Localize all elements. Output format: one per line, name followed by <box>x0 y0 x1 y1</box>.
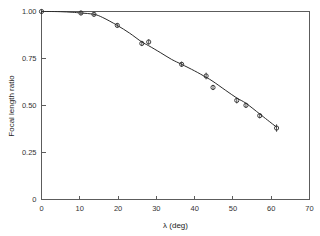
data-point <box>244 103 248 108</box>
y-tick-label-0: 0 <box>32 195 36 204</box>
data-point <box>147 39 151 44</box>
x-tick-label-40: 40 <box>190 204 198 213</box>
data-point <box>211 85 215 90</box>
fitted-curve <box>42 11 277 127</box>
chart-figure: 01020304050607000.250.500.751.00 λ (deg)… <box>0 0 320 236</box>
y-axis-title: Focal length ratio <box>7 75 16 137</box>
y-tick-label-0.75: 0.75 <box>22 54 37 63</box>
focal-length-ratio-plot: 01020304050607000.250.500.751.00 λ (deg)… <box>0 0 320 236</box>
x-axis-title: λ (deg) <box>163 221 188 230</box>
y-tick-label-0.25: 0.25 <box>22 148 37 157</box>
data-markers-group <box>39 9 278 132</box>
data-point <box>180 62 184 67</box>
x-tick-label-10: 10 <box>76 204 84 213</box>
axes-group <box>42 12 310 200</box>
data-point <box>115 23 119 28</box>
ticks-group <box>42 12 310 200</box>
tick-labels-group: 01020304050607000.250.500.751.00 <box>22 7 314 212</box>
plot-frame <box>42 12 310 200</box>
x-tick-label-60: 60 <box>267 204 275 213</box>
x-tick-label-20: 20 <box>114 204 122 213</box>
y-tick-label-1.00: 1.00 <box>22 7 37 16</box>
x-tick-label-70: 70 <box>305 204 313 213</box>
x-tick-label-0: 0 <box>39 204 43 213</box>
data-point <box>140 41 144 46</box>
y-tick-label-0.50: 0.50 <box>22 101 37 110</box>
data-curve-group <box>42 11 277 127</box>
x-tick-label-30: 30 <box>152 204 160 213</box>
x-tick-label-50: 50 <box>229 204 237 213</box>
